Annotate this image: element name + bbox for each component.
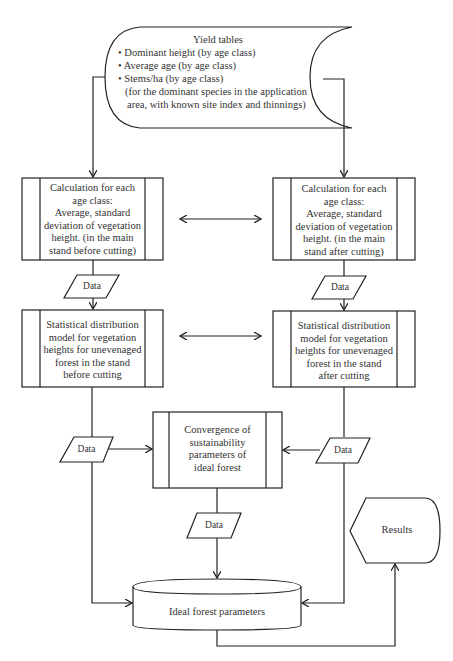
text-line: Average, standard (291, 208, 397, 221)
yield-note: area, with known site index and thinning… (118, 98, 318, 111)
text-line: heights for unevenaged (40, 344, 145, 357)
convergence-label: Convergence of sustainability parameters… (169, 424, 266, 474)
data-label-mid-right: Data (321, 444, 365, 457)
yield-bullet: • Dominant height (by age class) (118, 46, 318, 59)
connector-yield-to-calc-before (93, 77, 105, 177)
yield-tables-text: Yield tables • Dominant height (by age c… (118, 33, 318, 111)
text-line: Calculation for each (291, 183, 397, 196)
stat-before-label: Statistical distribution model for veget… (40, 319, 145, 382)
text-line: Average, standard (40, 207, 145, 220)
ideal-forest-cylinder (133, 579, 301, 630)
text-line: sustainability (169, 437, 266, 450)
text-line: model for vegetation (291, 333, 397, 346)
yield-tables-title: Yield tables (118, 33, 318, 46)
data-label-center: Data (192, 519, 236, 532)
data-label-mid-left: Data (65, 443, 108, 456)
text-line: stand before cutting) (40, 245, 145, 258)
text-line: before cutting (40, 369, 145, 382)
text-line: forest in the stand (291, 358, 397, 371)
data-label-upper-right: Data (318, 281, 362, 294)
calc-after-label: Calculation for each age class: Average,… (291, 183, 397, 259)
text-line: stand after cutting) (291, 246, 397, 259)
text-line: age class: (291, 196, 397, 209)
yield-bullet: • Stems/ha (by age class) (118, 72, 318, 85)
text-line: model for vegetation (40, 332, 145, 345)
text-line: after cutting (291, 370, 397, 383)
text-line: Calculation for each (40, 182, 145, 195)
text-line: deviation of vegetation (291, 221, 397, 234)
ideal-forest-label: Ideal forest parameters (140, 606, 294, 619)
text-line: ideal forest (169, 462, 266, 475)
text-line: Convergence of (169, 424, 266, 437)
text-line: height. (in the main (291, 233, 397, 246)
results-label: Results (366, 524, 428, 537)
text-line: forest in the stand (40, 357, 145, 370)
data-label-upper-left: Data (70, 280, 114, 293)
text-line: age class: (40, 195, 145, 208)
yield-note: (for the dominant species in the applica… (118, 85, 318, 98)
yield-bullet: • Average age (by age class) (118, 59, 318, 72)
text-line: heights for unevenaged (291, 345, 397, 358)
text-line: height. (in the main (40, 232, 145, 245)
text-line: Statistical distribution (40, 319, 145, 332)
text-line: deviation of vegetation (40, 220, 145, 233)
stat-after-label: Statistical distribution model for veget… (291, 320, 397, 383)
calc-before-label: Calculation for each age class: Average,… (40, 182, 145, 258)
text-line: Statistical distribution (291, 320, 397, 333)
text-line: parameters of (169, 449, 266, 462)
